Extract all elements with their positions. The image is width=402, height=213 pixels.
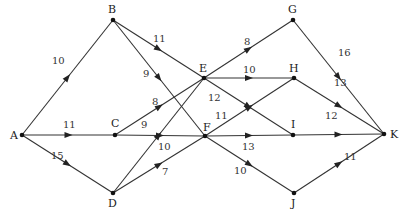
node-dot xyxy=(292,191,297,196)
edge-weight-label: 13 xyxy=(334,77,347,88)
edge-a-c: 11 xyxy=(22,119,115,138)
node-dot xyxy=(20,133,25,138)
edges-layer: 101115119891078101211131016131211 xyxy=(22,20,384,193)
edge-weight-label: 11 xyxy=(215,110,228,121)
node-dot xyxy=(203,134,208,139)
edge-weight-label: 16 xyxy=(338,47,351,58)
node-label: E xyxy=(199,62,207,75)
node-dot xyxy=(111,191,116,196)
edge-weight-label: 10 xyxy=(243,64,256,75)
node-label: K xyxy=(390,128,399,141)
arrowhead-icon xyxy=(65,132,73,138)
edge-b-e: 11 xyxy=(113,20,204,78)
node-dot xyxy=(291,133,296,138)
node-b: B xyxy=(108,3,116,22)
edge-weight-label: 12 xyxy=(208,92,221,103)
edge-c-f: 9 xyxy=(115,119,205,139)
edge-a-b: 10 xyxy=(22,20,113,135)
edge-weight-label: 11 xyxy=(63,119,76,130)
arrowhead-icon xyxy=(245,75,253,81)
node-label: D xyxy=(108,197,117,210)
node-j: J xyxy=(290,191,296,210)
edge-weight-label: 15 xyxy=(51,150,64,161)
node-g: G xyxy=(288,3,297,22)
node-k: K xyxy=(382,128,399,141)
node-label: J xyxy=(290,197,295,210)
node-a: A xyxy=(9,129,24,142)
node-label: F xyxy=(203,121,211,134)
node-dot xyxy=(113,133,118,138)
edge-e-h: 10 xyxy=(204,64,294,81)
node-dot xyxy=(202,76,207,81)
edge-a-d: 15 xyxy=(22,135,113,193)
arrowhead-icon xyxy=(334,131,342,137)
node-dot xyxy=(292,76,297,81)
node-label: A xyxy=(9,129,19,142)
edge-weight-label: 13 xyxy=(242,141,255,152)
node-c: C xyxy=(111,117,119,137)
network-diagram: 101115119891078101211131016131211 ABCDEF… xyxy=(0,0,402,213)
edge-weight-label: 10 xyxy=(52,55,65,66)
arrowhead-icon xyxy=(63,159,73,168)
edge-weight-label: 9 xyxy=(143,68,149,79)
edge-h-k: 13 xyxy=(294,77,384,134)
node-label: H xyxy=(289,62,299,75)
edge-weight-label: 10 xyxy=(234,165,247,176)
edge-c-e: 8 xyxy=(115,78,204,135)
node-label: C xyxy=(111,117,119,130)
edge-i-k: 12 xyxy=(293,110,384,138)
node-dot xyxy=(382,132,387,137)
edge-weight-label: 11 xyxy=(344,151,357,162)
node-label: B xyxy=(108,3,116,16)
edge-weight-label: 8 xyxy=(244,36,250,47)
edge-weight-label: 10 xyxy=(158,141,171,152)
edge-weight-label: 12 xyxy=(325,110,338,121)
edge-weight-label: 9 xyxy=(141,119,147,130)
network-graph: 101115119891078101211131016131211 ABCDEF… xyxy=(0,0,402,213)
edge-f-i: 13 xyxy=(205,132,293,152)
edge-weight-label: 11 xyxy=(153,33,166,44)
node-e: E xyxy=(199,62,207,80)
arrowhead-icon xyxy=(334,159,344,168)
node-label: G xyxy=(288,3,297,16)
edge-j-k: 11 xyxy=(294,134,384,193)
edge-weight-label: 7 xyxy=(162,166,168,177)
node-dot xyxy=(291,18,296,23)
node-dot xyxy=(111,18,116,23)
node-d: D xyxy=(108,191,117,210)
arrowhead-icon xyxy=(245,132,253,138)
edge-weight-label: 8 xyxy=(152,96,158,107)
arrowhead-icon xyxy=(154,44,164,53)
node-label: I xyxy=(291,118,295,131)
node-i: I xyxy=(291,118,296,137)
